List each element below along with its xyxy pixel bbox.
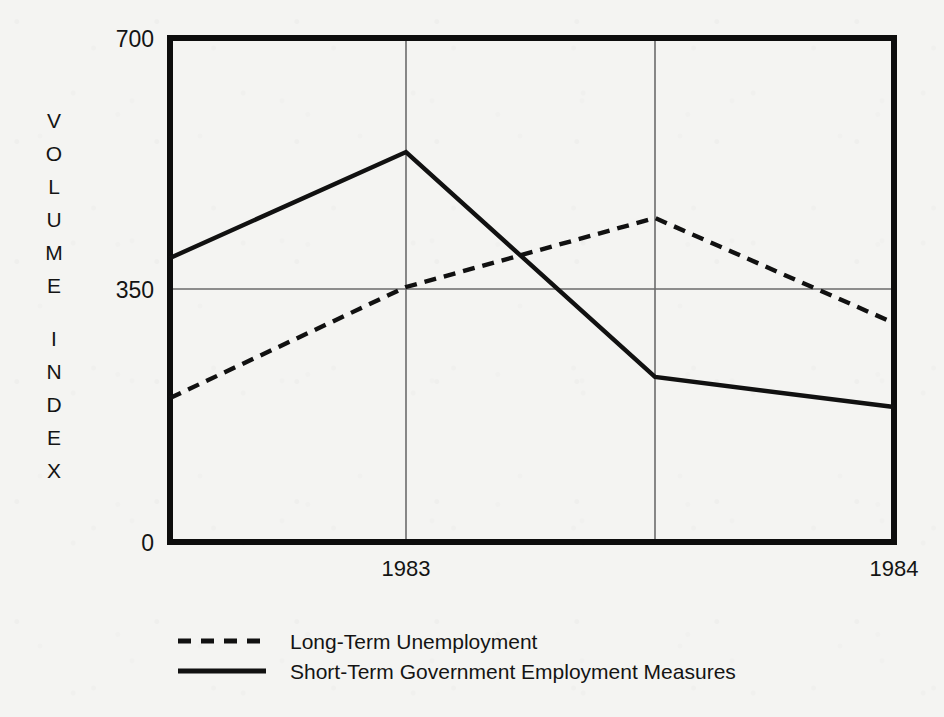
- plot-frame: [170, 38, 894, 542]
- series-line-short-term-government-employment-measures: [170, 152, 894, 407]
- series-line-long-term-unemployment: [170, 218, 894, 398]
- legend-label-long-term-unemployment: Long-Term Unemployment: [290, 631, 537, 652]
- chart-legend: Long-Term Unemployment Short-Term Govern…: [176, 626, 876, 686]
- legend-swatch-solid-line: [176, 662, 268, 680]
- volume-index-line-chart: V O L U M E I N D E X 700 350 0 1983 198…: [0, 0, 944, 717]
- legend-item-long-term-unemployment: Long-Term Unemployment: [176, 626, 876, 656]
- legend-swatch-dashed-line: [176, 632, 268, 650]
- plot-svg: [0, 0, 944, 717]
- legend-item-short-term-government-employment-measures: Short-Term Government Employment Measure…: [176, 656, 876, 686]
- legend-label-short-term-government-employment-measures: Short-Term Government Employment Measure…: [290, 661, 736, 682]
